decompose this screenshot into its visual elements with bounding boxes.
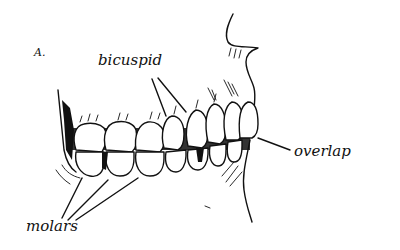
figure-label: A.	[34, 47, 45, 58]
bicuspid-label: bicuspid	[98, 53, 162, 68]
upper-teeth	[72, 78, 258, 152]
molars-label: molars	[26, 219, 78, 234]
lower-teeth	[62, 140, 242, 220]
dental-illustration: A. bicuspid overlap molars	[0, 0, 400, 250]
overlap-label: overlap	[294, 144, 351, 159]
overlap-pointer	[258, 138, 290, 150]
teeth-drawing	[0, 0, 400, 250]
